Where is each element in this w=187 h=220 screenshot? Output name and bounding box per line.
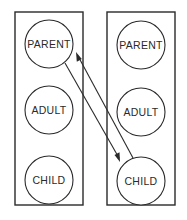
arrowhead-icon bbox=[115, 152, 121, 162]
right-adult-label: ADULT bbox=[123, 106, 158, 118]
left-column: PARENT ADULT CHILD bbox=[15, 12, 83, 205]
left-parent-label: PARENT bbox=[27, 38, 71, 50]
right-parent-label: PARENT bbox=[119, 39, 163, 51]
right-child-label: CHILD bbox=[124, 175, 157, 187]
left-parent-state: PARENT bbox=[25, 20, 73, 68]
left-adult-state: ADULT bbox=[25, 86, 73, 134]
ego-state-diagram: PARENT ADULT CHILD PARENT ADULT CHILD bbox=[0, 0, 187, 220]
right-parent-state: PARENT bbox=[117, 21, 165, 69]
right-child-state: CHILD bbox=[117, 157, 165, 205]
left-child-state: CHILD bbox=[25, 156, 73, 204]
left-adult-label: ADULT bbox=[31, 104, 66, 116]
left-child-label: CHILD bbox=[32, 174, 65, 186]
right-adult-state: ADULT bbox=[117, 88, 165, 136]
right-column: PARENT ADULT CHILD bbox=[107, 12, 175, 205]
